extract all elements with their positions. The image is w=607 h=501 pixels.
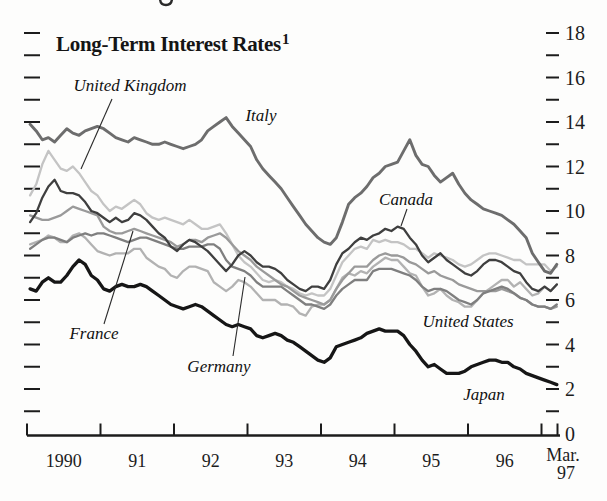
x-axis-label: 96 (496, 451, 514, 471)
y-axis-label: 4 (565, 334, 575, 356)
x-axis-label: 94 (349, 451, 367, 471)
x-axis-label-97: 97 (557, 463, 575, 483)
x-axis-label: 1990 (46, 451, 82, 471)
series-line-italy (30, 118, 557, 274)
chart-title-text: Long-Term Interest Rates (56, 32, 281, 56)
y-axis-label: 0 (565, 423, 575, 445)
series-label-canada: Canada (379, 190, 433, 209)
y-axis-label: 12 (565, 156, 585, 178)
interest-rates-figure: Long-Term Interest Rates1 02468101214161… (0, 0, 607, 501)
series-label-japan: Japan (463, 385, 505, 404)
y-axis-label: 16 (565, 67, 585, 89)
series-label-germany: Germany (187, 357, 251, 376)
y-axis-label: 8 (565, 245, 575, 267)
footnote-marker: 1 (282, 31, 289, 47)
series-label-italy: Italy (244, 106, 277, 125)
x-axis-label: 95 (422, 451, 440, 471)
chart-title: Long-Term Interest Rates1 (56, 31, 289, 57)
callout-line-united-kingdom (81, 99, 112, 169)
series-label-united-states: United States (422, 312, 514, 331)
series-line-united-states (30, 233, 557, 315)
x-axis-label: 91 (128, 451, 146, 471)
series-line-united-kingdom (30, 151, 557, 296)
y-axis-label: 10 (565, 200, 585, 222)
x-axis-label: 93 (275, 451, 293, 471)
callout-line-germany (233, 277, 245, 356)
y-axis-label: 2 (565, 378, 575, 400)
interest-rates-chart: 0246810121416181990919293949596Mar.97Uni… (0, 0, 607, 501)
x-axis-label-mar: Mar. (546, 445, 580, 465)
callout-line-canada (401, 209, 407, 226)
x-axis-label: 92 (202, 451, 220, 471)
callout-line-france (104, 231, 133, 324)
series-label-france: France (68, 324, 119, 343)
y-axis-label: 18 (565, 22, 585, 44)
y-axis-label: 6 (565, 289, 575, 311)
y-axis-label: 14 (565, 111, 585, 133)
series-label-united-kingdom: United Kingdom (74, 76, 187, 95)
scan-artifact (160, 0, 172, 5)
scanned-page: { "chart_data": { "type": "line", "title… (0, 0, 607, 501)
